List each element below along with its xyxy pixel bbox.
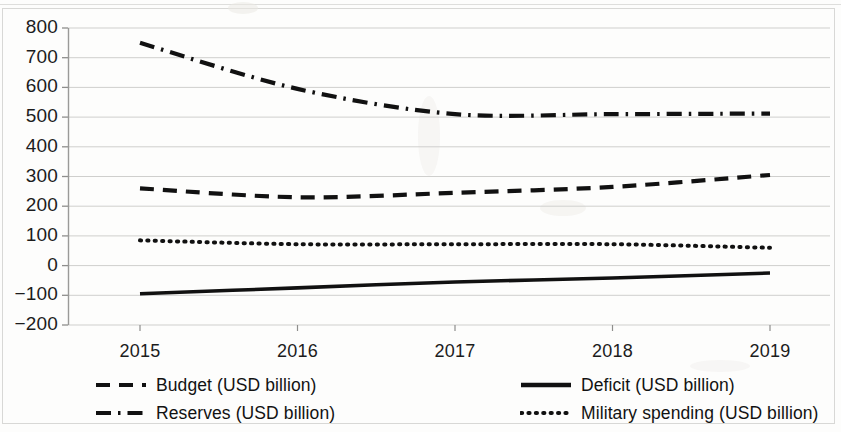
plot-canvas — [0, 0, 841, 432]
legend-key-swatch — [95, 406, 147, 420]
series-line-reserves — [140, 43, 770, 116]
x-tick-label: 2018 — [573, 341, 653, 362]
series-line-military — [140, 240, 770, 247]
x-tick-label: 2015 — [100, 341, 180, 362]
legend-label: Deficit (USD billion) — [581, 375, 735, 396]
y-tick-label: 800 — [0, 16, 58, 38]
legend-label: Military spending (USD billion) — [581, 403, 819, 424]
y-tick-label: 100 — [0, 224, 58, 246]
y-tick-label: 500 — [0, 105, 58, 127]
legend-item[interactable]: Military spending (USD billion) — [520, 400, 819, 426]
axis-ticks-group — [62, 28, 770, 331]
y-tick-label: 300 — [0, 165, 58, 187]
legend-label: Reserves (USD billion) — [156, 403, 335, 424]
y-tick-label: −100 — [0, 283, 58, 305]
legend-key-swatch — [520, 378, 572, 392]
x-tick-label: 2017 — [415, 341, 495, 362]
y-tick-label: −200 — [0, 313, 58, 335]
chart-legend: Budget (USD billion)Deficit (USD billion… — [70, 372, 815, 426]
legend-item[interactable]: Deficit (USD billion) — [520, 372, 735, 398]
legend-key-swatch — [95, 378, 147, 392]
y-tick-label: 0 — [0, 254, 58, 276]
legend-item[interactable]: Reserves (USD billion) — [95, 400, 335, 426]
chart-figure: 8007006005004003002001000−100−200 201520… — [0, 0, 841, 432]
y-tick-label: 400 — [0, 135, 58, 157]
y-tick-label: 600 — [0, 75, 58, 97]
x-tick-label: 2016 — [258, 341, 338, 362]
y-tick-label: 200 — [0, 194, 58, 216]
x-tick-label: 2019 — [730, 341, 810, 362]
legend-item[interactable]: Budget (USD billion) — [95, 372, 317, 398]
series-line-budget — [140, 175, 770, 197]
data-series-group — [140, 43, 770, 294]
legend-key-swatch — [520, 406, 572, 420]
y-tick-label: 700 — [0, 46, 58, 68]
legend-label: Budget (USD billion) — [156, 375, 317, 396]
series-line-deficit — [140, 273, 770, 294]
